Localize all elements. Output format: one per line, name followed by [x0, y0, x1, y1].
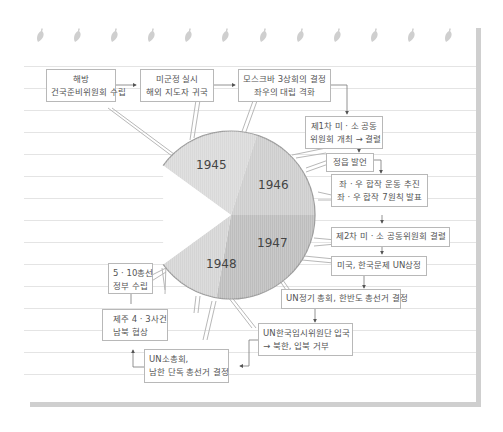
event-text: → 북한, 입북 거부 — [263, 340, 348, 353]
event-box-us-military-government: 미군정 실시 해외 지도자 귀국 — [140, 69, 214, 102]
event-text: 5 · 10총선 — [113, 267, 148, 280]
event-text: 건국준비위원회 수립 — [51, 86, 111, 99]
event-text: 해외 지도자 귀국 — [145, 86, 209, 99]
pie-label-1945: 1945 — [196, 158, 227, 172]
event-box-jeongeup-speech: 정읍 발언 — [326, 153, 374, 172]
event-text: 모스크바 3상회의 결정 — [243, 73, 326, 86]
pie-label-1946: 1946 — [258, 178, 289, 192]
event-text: 제1차 미 · 소 공동 — [310, 120, 378, 133]
event-box-un-general-assembly: UN정기 총회, 한반도 총선거 결정 — [281, 289, 401, 309]
event-box-second-joint-commission: 제2차 미 · 소 공동위원회 결렬 — [331, 227, 450, 247]
event-text: 남북 협상 — [113, 326, 157, 339]
event-box-liberation: 해방 건국준비위원회 수립 — [46, 69, 116, 102]
event-text: 좌 · 우 합작 7원칙 발표 — [336, 191, 423, 204]
event-text: 좌우의 대립 격화 — [243, 86, 326, 99]
event-text: 미국, 한국문제 UN상정 — [336, 259, 422, 272]
event-text: 제2차 미 · 소 공동위원회 결렬 — [336, 230, 445, 243]
event-text: 좌 · 우 합작 운동 추진 — [336, 178, 423, 191]
event-text: 정읍 발언 — [331, 156, 369, 169]
event-text: UN정기 총회, 한반도 총선거 결정 — [286, 292, 396, 305]
event-box-un-little-assembly: UN소총회, 남한 단독 총선거 결정 — [144, 349, 229, 383]
event-text: 남한 단독 총선거 결정 — [149, 366, 224, 379]
event-text: 제주 4 · 3사건 — [113, 313, 157, 326]
event-text: 위원회 개최 → 결렬 — [310, 133, 378, 146]
event-box-jeju-uprising: 제주 4 · 3사건 남북 협상 — [102, 309, 168, 341]
event-box-first-joint-commission: 제1차 미 · 소 공동 위원회 개최 → 결렬 — [305, 116, 383, 149]
pie-label-1948: 1948 — [206, 257, 237, 271]
pie-label-1947: 1947 — [257, 236, 288, 250]
year-pie — [147, 131, 315, 299]
event-box-moscow-conference: 모스크바 3상회의 결정 좌우의 대립 격화 — [238, 69, 331, 102]
timeline-diagram — [0, 0, 503, 432]
event-box-un-referral: 미국, 한국문제 UN상정 — [331, 256, 427, 276]
event-box-left-right-coalition: 좌 · 우 합작 운동 추진 좌 · 우 합작 7원칙 발표 — [331, 174, 428, 207]
event-text: 해방 — [51, 73, 111, 86]
event-box-may-10-election: 5 · 10총선 정부 수립 — [108, 263, 153, 294]
event-text: UN한국임시위원단 입국 — [263, 327, 348, 340]
event-text: 정부 수립 — [113, 280, 148, 293]
event-box-un-temporary-commission: UN한국임시위원단 입국 → 북한, 입북 거부 — [258, 323, 353, 356]
event-text: UN소총회, — [149, 353, 224, 366]
event-text: 미군정 실시 — [145, 73, 209, 86]
